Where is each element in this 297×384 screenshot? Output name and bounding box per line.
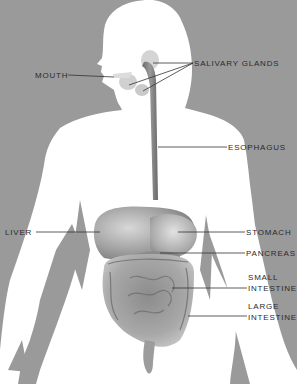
- label-large-intestine-line1: LARGE: [248, 302, 279, 311]
- label-liver: LIVER: [5, 228, 32, 237]
- label-large-intestine-line2: INTESTINE: [248, 313, 297, 322]
- label-salivary-glands: SALIVARY GLANDS: [194, 59, 279, 68]
- label-mouth: MOUTH: [35, 71, 68, 80]
- label-small-intestine-line2: INTESTINE: [248, 284, 297, 293]
- label-stomach: STOMACH: [246, 228, 291, 237]
- label-esophagus: ESOPHAGUS: [228, 143, 286, 152]
- digestive-system-diagram: [0, 0, 297, 384]
- label-small-intestine-line1: SMALL: [248, 273, 278, 282]
- label-pancreas: PANCREAS: [246, 249, 296, 258]
